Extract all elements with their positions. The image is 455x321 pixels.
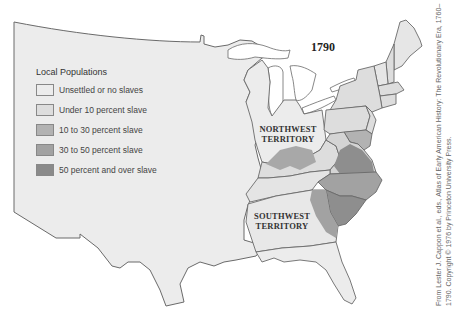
maine <box>394 20 422 70</box>
connecticut-ri <box>380 94 396 108</box>
source-credit-line1: From Lester J. Cappon et al., eds., Atla… <box>434 4 444 306</box>
legend-label: 50 percent and over slave <box>59 165 157 175</box>
northwest-territory-label-line1: NORTHWEST <box>253 124 323 134</box>
northwest-territory-label-line2: TERRITORY <box>253 134 323 144</box>
legend-item-50-and-over: 50 percent and over slave <box>36 163 157 176</box>
source-credit-line2: 1790. Copyright © 1976 by Princeton Univ… <box>444 4 454 306</box>
legend-swatch <box>36 84 54 96</box>
legend-swatch <box>36 144 54 156</box>
legend-swatch <box>36 104 54 116</box>
legend-item-under-10: Under 10 percent slave <box>36 103 157 116</box>
southwest-territory-label-line2: TERRITORY <box>254 221 310 231</box>
legend-title: Local Populations <box>36 67 157 77</box>
legend-label: 30 to 50 percent slave <box>59 145 143 155</box>
legend-item-unsettled: Unsettled or no slaves <box>36 83 157 96</box>
legend-swatch <box>36 124 54 136</box>
florida <box>256 242 356 304</box>
legend-label: 10 to 30 percent slave <box>59 125 143 135</box>
legend-item-10-to-30: 10 to 30 percent slave <box>36 123 157 136</box>
southwest-territory-label: SOUTHWEST TERRITORY <box>254 211 310 231</box>
legend-label: Under 10 percent slave <box>59 105 147 115</box>
pennsylvania <box>324 106 370 134</box>
legend-swatch <box>36 164 54 176</box>
legend-item-30-to-50: 30 to 50 percent slave <box>36 143 157 156</box>
map-title-year: 1790 <box>311 40 335 55</box>
legend-label: Unsettled or no slaves <box>59 85 143 95</box>
northwest-territory-label: NORTHWEST TERRITORY <box>253 124 323 144</box>
source-credit: From Lester J. Cappon et al., eds., Atla… <box>434 4 454 306</box>
southwest-territory-label-line1: SOUTHWEST <box>254 211 310 221</box>
map-legend: Local Populations Unsettled or no slaves… <box>36 67 157 183</box>
lake-huron <box>290 66 316 101</box>
lake-superior <box>228 44 290 60</box>
